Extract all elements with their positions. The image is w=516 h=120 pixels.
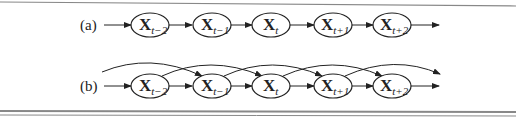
node-x-t-plus-1: Xt+1 (314, 13, 352, 37)
node-x-t-minus-1: Xt−1 (193, 13, 231, 37)
node-x-t-plus-1: Xt+1 (314, 74, 352, 98)
row-b: (b) Xt−2 Xt−1 Xt Xt+1 Xt+2 (80, 63, 440, 98)
node-x-t-plus-2: Xt+2 (373, 13, 411, 37)
top-rule (0, 2, 516, 6)
row-a-label: (a) (80, 17, 97, 34)
row-a: (a) Xt−2 Xt−1 Xt Xt+1 Xt+2 (80, 13, 439, 37)
node-x-t-minus-2: Xt−2 (131, 13, 169, 37)
bottom-rule-2 (0, 115, 516, 116)
markov-chain-diagram: (a) Xt−2 Xt−1 Xt Xt+1 Xt+2 (b) (0, 0, 516, 120)
node-x-t-minus-2: Xt−2 (131, 74, 169, 98)
node-x-t-plus-2: Xt+2 (373, 74, 411, 98)
row-b-label: (b) (80, 78, 98, 95)
node-x-t-minus-1: Xt−1 (193, 74, 231, 98)
bottom-rule (0, 111, 516, 112)
node-x-t: Xt (252, 13, 290, 37)
node-x-t: Xt (252, 74, 290, 98)
